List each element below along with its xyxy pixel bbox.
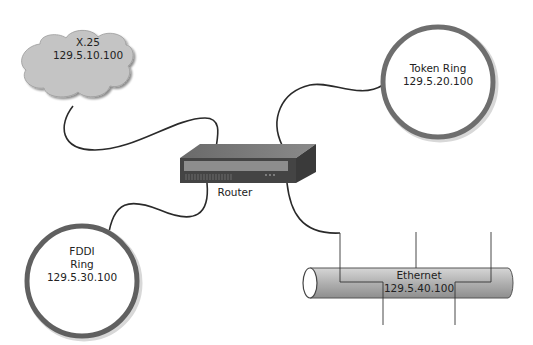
- token-ring-label: Token Ring 129.5.20.100: [398, 62, 478, 88]
- token-ring-address: 129.5.20.100: [398, 75, 478, 88]
- fddi-name: FDDI: [42, 245, 122, 258]
- fddi-address: 129.5.30.100: [42, 271, 122, 284]
- cable-x25: [64, 106, 218, 150]
- x25-label: X.25 129.5.10.100: [48, 36, 128, 62]
- ethernet-label: Ethernet 129.5.40.100: [379, 269, 459, 295]
- router-device: [180, 144, 316, 183]
- network-diagram: X.25 129.5.10.100 Token Ring 129.5.20.10…: [0, 0, 533, 345]
- fddi-name-2: Ring: [42, 258, 122, 271]
- ethernet-address: 129.5.40.100: [379, 282, 459, 295]
- token-ring-name: Token Ring: [398, 62, 478, 75]
- fddi-label: FDDI Ring 129.5.30.100: [42, 245, 122, 284]
- cable-token-ring: [277, 84, 383, 145]
- x25-name: X.25: [48, 36, 128, 49]
- router-label: Router: [205, 186, 265, 199]
- ethernet-name: Ethernet: [379, 269, 459, 282]
- cable-ethernet: [287, 183, 340, 233]
- x25-address: 129.5.10.100: [48, 49, 128, 62]
- cable-fddi: [108, 183, 207, 238]
